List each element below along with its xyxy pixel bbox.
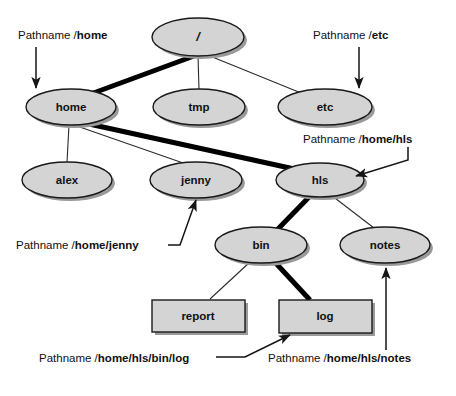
edge-hls-notes bbox=[331, 195, 374, 228]
node-jenny[interactable]: jenny bbox=[150, 162, 242, 198]
annotation-home: Pathname /home bbox=[18, 29, 108, 42]
arrow-home-hls bbox=[356, 147, 408, 176]
annotation-hls-notes-prefix: Pathname / bbox=[268, 352, 327, 364]
annotation-hls-notes: Pathname /home/hls/notes bbox=[268, 352, 411, 365]
annotation-home-prefix: Pathname / bbox=[18, 29, 77, 41]
node-bin[interactable]: bin bbox=[215, 227, 307, 263]
annotation-home-jenny-prefix: Pathname / bbox=[16, 239, 75, 251]
annotation-hls-notes-path: home/hls/notes bbox=[327, 352, 411, 364]
annotation-etc-prefix: Pathname / bbox=[313, 29, 372, 41]
filesystem-diagram: / home tmp etc alex jenny bbox=[0, 0, 456, 396]
annotation-bin-log: Pathname /home/hls/bin/log bbox=[39, 352, 189, 365]
annotation-etc-path: etc bbox=[372, 29, 389, 41]
node-hls[interactable]: hls bbox=[276, 163, 364, 197]
node-log[interactable]: log bbox=[279, 300, 372, 333]
annotation-home-jenny-path: home/jenny bbox=[75, 239, 139, 251]
annotation-etc: Pathname /etc bbox=[313, 29, 388, 42]
diagram-canvas: / home tmp etc alex jenny bbox=[0, 0, 456, 396]
annotation-home-hls-path: home/hls bbox=[362, 133, 412, 145]
annotation-home-hls: Pathname /home/hls bbox=[303, 133, 412, 146]
annotation-home-jenny: Pathname /home/jenny bbox=[16, 239, 139, 252]
annotation-home-path: home bbox=[77, 29, 108, 41]
node-notes[interactable]: notes bbox=[340, 227, 430, 263]
arrow-home-jenny bbox=[168, 200, 196, 245]
node-etc[interactable]: etc bbox=[278, 89, 372, 125]
annotation-bin-log-path: home/hls/bin/log bbox=[98, 352, 189, 364]
node-home[interactable]: home bbox=[26, 89, 116, 125]
node-tmp[interactable]: tmp bbox=[153, 89, 245, 125]
edge-root-etc bbox=[205, 54, 306, 95]
edge-bin-report bbox=[210, 262, 250, 299]
edge-home-alex bbox=[67, 125, 69, 162]
node-alex[interactable]: alex bbox=[22, 162, 112, 198]
edge-hls-bin-highlight bbox=[276, 194, 312, 231]
edge-root-tmp bbox=[198, 56, 199, 89]
annotation-bin-log-prefix: Pathname / bbox=[39, 352, 98, 364]
edge-root-home-highlight bbox=[88, 56, 194, 95]
nodes: / home tmp etc alex jenny bbox=[22, 18, 430, 333]
node-report[interactable]: report bbox=[152, 300, 245, 332]
node-root[interactable]: / bbox=[152, 18, 244, 56]
annotation-home-hls-prefix: Pathname / bbox=[303, 133, 362, 145]
